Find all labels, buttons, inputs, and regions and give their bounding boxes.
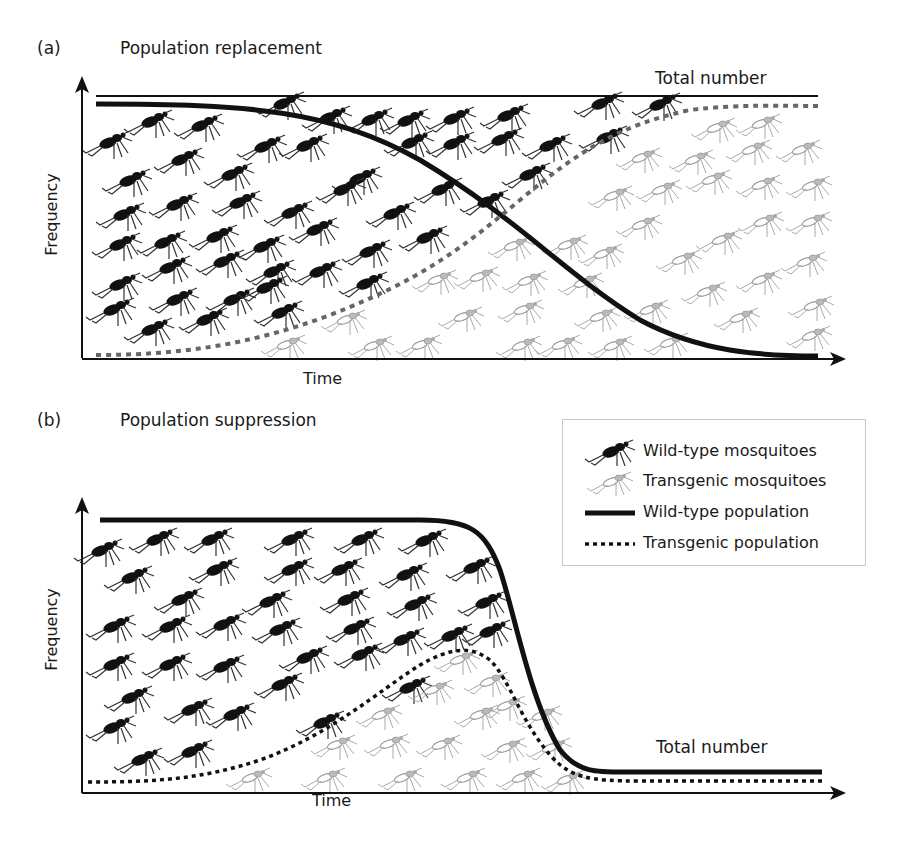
mosquito-dark-icon [575, 438, 637, 466]
legend-label: Transgenic population [643, 533, 819, 552]
legend-item-wildtype-mosquitoes: Wild-type mosquitoes [563, 438, 865, 466]
panel-b-transgenic-curve [88, 650, 822, 782]
legend-item-transgenic-population: Transgenic population [563, 530, 865, 558]
legend-label: Transgenic mosquitoes [643, 471, 826, 490]
legend-item-wildtype-population: Wild-type population [563, 499, 865, 527]
legend: Wild-type mosquitoes Transgenic mosquito… [562, 419, 866, 566]
dotted-line-icon [575, 530, 637, 558]
panel-b-transgenic-mosquitoes [226, 650, 587, 795]
legend-item-transgenic-mosquitoes: Transgenic mosquitoes [563, 468, 865, 496]
legend-label: Wild-type population [643, 502, 809, 521]
solid-line-icon [575, 499, 637, 527]
mosquito-light-icon [575, 468, 637, 496]
legend-label: Wild-type mosquitoes [643, 441, 817, 460]
